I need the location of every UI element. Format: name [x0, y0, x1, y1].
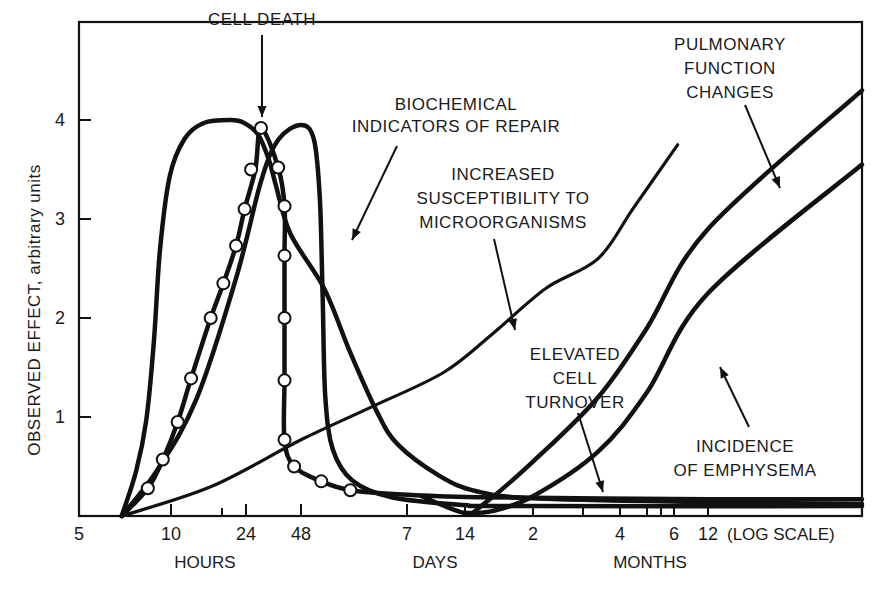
annotation-label: CELL: [553, 369, 598, 388]
x-tick-label: 14: [455, 524, 475, 544]
y-tick-label: 1: [55, 407, 65, 427]
annotation-label: BIOCHEMICAL: [395, 95, 518, 114]
y-axis-label: OBSERVED EFFECT, arbitrary units: [25, 164, 44, 456]
annotation-label: INCIDENCE: [696, 437, 794, 456]
annotation-label: FUNCTION: [684, 59, 776, 78]
data-point-marker: [185, 372, 197, 384]
annotation-label: PULMONARY: [674, 35, 786, 54]
y-tick-label: 3: [55, 209, 65, 229]
y-axis-ticks: 1234: [55, 110, 91, 427]
x-tick-label: 5: [74, 524, 84, 544]
x-tick-label: 48: [291, 524, 311, 544]
data-point-marker: [279, 434, 291, 446]
x-group-months: MONTHS: [613, 553, 687, 572]
data-point-marker: [142, 482, 154, 494]
data-point-marker: [279, 312, 291, 324]
data-point-marker: [279, 374, 291, 386]
data-point-marker: [245, 164, 257, 176]
data-point-marker: [279, 250, 291, 262]
x-tick-label: 4: [615, 524, 625, 544]
annotation-label: CHANGES: [686, 83, 774, 102]
x-tick-label: 6: [669, 524, 679, 544]
annotation-label: INCREASED: [451, 165, 555, 184]
x-tick-label: 12: [698, 524, 718, 544]
annotation-label: TURNOVER: [525, 393, 624, 412]
annotation-label: OF EMPHYSEMA: [674, 461, 817, 480]
annotation-label: SUSCEPTIBILITY TO: [417, 189, 590, 208]
data-point-marker: [272, 162, 284, 174]
x-tick-label: 2: [528, 524, 538, 544]
data-point-marker: [239, 203, 251, 215]
data-point-marker: [172, 416, 184, 428]
data-point-marker: [230, 240, 242, 252]
y-tick-label: 2: [55, 308, 65, 328]
arrowhead-icon: [352, 228, 361, 240]
annotation-label: ELEVATED: [530, 345, 620, 364]
x-tick-label: 10: [161, 524, 181, 544]
x-axis-ticks: 510244871424612: [74, 504, 718, 544]
data-point-marker: [344, 484, 356, 496]
data-point-marker: [157, 454, 169, 466]
data-point-marker: [315, 475, 327, 487]
data-point-marker: [205, 312, 217, 324]
x-group-hours: HOURS: [174, 553, 235, 572]
x-scale-note: (LOG SCALE): [727, 525, 835, 544]
arrowhead-icon: [258, 106, 267, 117]
data-point-marker: [217, 277, 229, 289]
series-elevated-cell-turnover: [422, 90, 862, 513]
annotation-arrow: [352, 146, 397, 240]
arrowhead-icon: [772, 176, 780, 188]
x-tick-label: 7: [402, 524, 412, 544]
x-group-days: DAYS: [412, 553, 457, 572]
annotation-arrow: [494, 239, 515, 330]
data-point-marker: [255, 122, 267, 134]
arrowhead-icon: [595, 480, 604, 492]
y-tick-label: 4: [55, 110, 65, 130]
chart: 1234 510244871424612 OBSERVED EFFECT, ar…: [0, 0, 875, 589]
annotation-label: CELL DEATH: [208, 10, 316, 29]
x-tick-label: 24: [236, 524, 256, 544]
annotation-label: INDICATORS OF REPAIR: [352, 117, 560, 136]
data-point-marker: [288, 461, 300, 473]
annotation-label: MICROORGANISMS: [419, 213, 587, 232]
data-point-marker: [279, 200, 291, 212]
